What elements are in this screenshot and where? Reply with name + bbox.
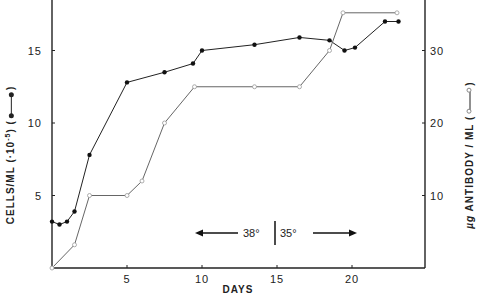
data-point <box>252 43 256 47</box>
y-left-scale: (·10-5) <box>5 124 16 162</box>
x-tick-label: 20 <box>345 273 359 285</box>
data-point <box>162 70 166 74</box>
y-axis-left-title: CELLS/ML (·10-5) () <box>4 86 16 224</box>
x-axis-title: DAYS <box>223 284 254 295</box>
data-point <box>125 80 129 84</box>
scale-suffix: ) <box>5 128 16 132</box>
data-point <box>395 11 399 15</box>
axis-ticks: 510152051015102030 <box>28 45 445 286</box>
data-point <box>163 121 167 125</box>
y-left-title-text: CELLS/ML <box>5 166 16 224</box>
data-point <box>57 222 61 226</box>
data-point <box>191 61 195 65</box>
data-point <box>140 179 144 183</box>
y-right-tick-label: 20 <box>430 117 444 129</box>
y-left-tick-label: 5 <box>35 190 42 202</box>
data-point <box>327 38 331 42</box>
chart: 510152051015102030 38°35° <box>0 0 478 306</box>
data-point <box>297 35 301 39</box>
data-point <box>383 19 387 23</box>
data-point <box>50 266 54 270</box>
data-point <box>65 219 69 223</box>
data-point <box>73 243 77 247</box>
data-point <box>125 194 129 198</box>
data-point <box>88 194 92 198</box>
data-point <box>342 48 346 52</box>
x-tick-label: 10 <box>195 273 209 285</box>
open-circle-line-legend-icon <box>466 88 474 114</box>
data-point <box>200 48 204 52</box>
data-point <box>341 11 345 15</box>
y-right-title-text: ANTIBODY / ML <box>464 124 475 212</box>
filled-circle-line-legend-icon <box>8 92 16 118</box>
y-left-tick-label: 10 <box>28 117 42 129</box>
data-point <box>328 49 332 53</box>
data-point <box>72 209 76 213</box>
data-point <box>87 153 91 157</box>
data-series <box>50 11 401 270</box>
data-point <box>253 85 257 89</box>
x-tick-label: 5 <box>123 273 130 285</box>
y-axis-right-title: µg ANTIBODY / ML () <box>464 81 475 228</box>
y-left-tick-label: 15 <box>28 45 42 57</box>
scale-prefix: (·10 <box>5 141 16 163</box>
scale-exponent: -5 <box>4 133 11 141</box>
data-point <box>298 85 302 89</box>
y-right-tick-label: 10 <box>430 190 444 202</box>
x-tick-label: 15 <box>270 273 284 285</box>
data-point <box>396 19 400 23</box>
axes <box>52 0 425 268</box>
temperature-annotation: 38°35° <box>195 221 357 245</box>
data-point <box>50 219 54 223</box>
y-right-unit: µg <box>464 215 475 229</box>
temp-right-label: 35° <box>280 227 297 239</box>
data-point <box>353 45 357 49</box>
temp-left-label: 38° <box>243 227 260 239</box>
y-right-tick-label: 30 <box>430 45 444 57</box>
data-point <box>193 85 197 89</box>
